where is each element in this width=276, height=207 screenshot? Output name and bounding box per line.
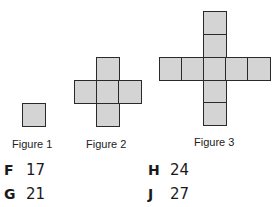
choice-j[interactable]: J 27 (148, 185, 189, 203)
square (159, 57, 183, 81)
choice-letter: G (4, 186, 26, 202)
square (203, 57, 227, 81)
square (96, 57, 120, 81)
square (96, 103, 120, 127)
square (203, 80, 227, 104)
choice-f[interactable]: F 17 (4, 161, 45, 179)
figure-3-label: Figure 3 (194, 136, 234, 148)
square (225, 57, 249, 81)
figure-1-label: Figure 1 (12, 138, 52, 150)
square (96, 80, 120, 104)
square (74, 80, 98, 104)
choice-value: 17 (26, 161, 45, 179)
square (118, 80, 142, 104)
choice-value: 21 (26, 185, 45, 203)
square (247, 57, 271, 81)
square (203, 34, 227, 58)
choice-g[interactable]: G 21 (4, 185, 45, 203)
choice-letter: H (148, 162, 170, 178)
square (203, 11, 227, 35)
choice-value: 27 (170, 185, 189, 203)
figure-2-label: Figure 2 (86, 138, 126, 150)
choice-letter: F (4, 162, 26, 178)
choice-value: 24 (170, 161, 189, 179)
square (181, 57, 205, 81)
choice-h[interactable]: H 24 (148, 161, 189, 179)
square (22, 103, 46, 127)
choice-letter: J (148, 186, 170, 202)
square (203, 102, 227, 126)
